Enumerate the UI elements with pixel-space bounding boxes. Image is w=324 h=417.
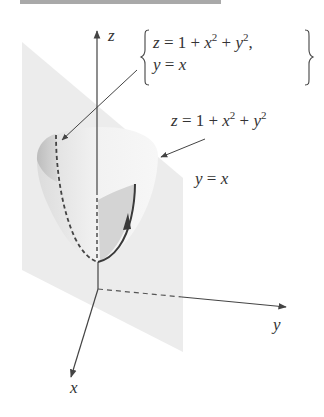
var-y: y (253, 111, 261, 130)
text: = 1 + (160, 33, 205, 52)
var-z: z (153, 33, 160, 52)
var-x: x (221, 169, 229, 188)
system-line-2: y = x (153, 55, 186, 75)
z-axis-label: z (108, 27, 115, 44)
header-bar (20, 0, 221, 4)
text: = (161, 55, 179, 74)
var-x: x (204, 33, 212, 52)
var-y: y (195, 169, 203, 188)
var-y: y (273, 315, 281, 334)
text: = 1 + (178, 111, 223, 130)
var-y: y (153, 55, 161, 74)
text: + (217, 33, 235, 52)
y-axis-label: y (273, 316, 281, 333)
text: + (235, 111, 253, 130)
text: = (203, 169, 221, 188)
system-label: z = 1 + x2 + y2, y = x (143, 28, 315, 86)
x-axis-label: x (70, 379, 78, 396)
var-x: x (70, 378, 78, 397)
paraboloid-pointer-arrow (161, 139, 205, 157)
text: , (249, 33, 253, 52)
var-z: z (171, 111, 178, 130)
y-axis (182, 297, 286, 307)
system-line-1: z = 1 + x2 + y2, (153, 33, 253, 53)
var-z: z (108, 26, 115, 45)
var-x: x (222, 111, 230, 130)
var-x: x (179, 55, 187, 74)
paraboloid-label: z = 1 + x2 + y2 (171, 112, 267, 129)
plane-label: y = x (195, 170, 228, 187)
x-axis (71, 289, 98, 377)
var-y: y (235, 33, 243, 52)
exponent: 2 (261, 109, 267, 121)
